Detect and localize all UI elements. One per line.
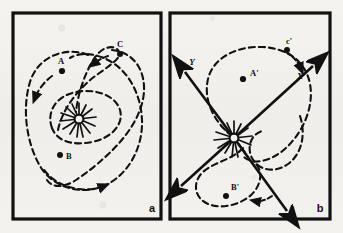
orbit-arrow-lower-b xyxy=(255,196,272,201)
panel-a-frame xyxy=(13,13,161,219)
point-marker-b-Bprime xyxy=(223,193,229,199)
point-label-B: B xyxy=(66,151,72,161)
orbit-inner-a xyxy=(50,91,120,143)
axis-y-line xyxy=(185,72,234,138)
point-marker-b-cprime xyxy=(284,47,290,53)
figure-root: A B C a xyxy=(0,0,343,233)
point-marker-a-C xyxy=(117,51,123,57)
panel-a-content: A B C a xyxy=(26,39,156,214)
orbit-arrow-left-a xyxy=(35,76,52,98)
point-marker-a-A xyxy=(59,68,65,74)
figure-canvas: A B C a xyxy=(0,0,343,233)
orbit-lower-a xyxy=(44,170,104,189)
panel-label-a: a xyxy=(149,202,156,214)
axis-label-y: Y xyxy=(189,57,196,67)
panel-frames xyxy=(13,13,330,219)
panel-b-content: A' B' c' X Y b xyxy=(181,36,324,214)
panel-label-b: b xyxy=(317,202,324,214)
axis-label-x: X xyxy=(296,71,304,81)
point-label-C: C xyxy=(117,39,123,49)
point-label-c-prime: c' xyxy=(286,36,292,46)
point-label-A: A xyxy=(58,56,65,66)
point-marker-a-B xyxy=(57,152,63,158)
point-label-B-prime: B' xyxy=(231,182,239,192)
axis-x-negative-line xyxy=(181,138,234,186)
point-marker-b-Aprime xyxy=(240,76,246,82)
point-label-A-prime: A' xyxy=(250,68,259,78)
